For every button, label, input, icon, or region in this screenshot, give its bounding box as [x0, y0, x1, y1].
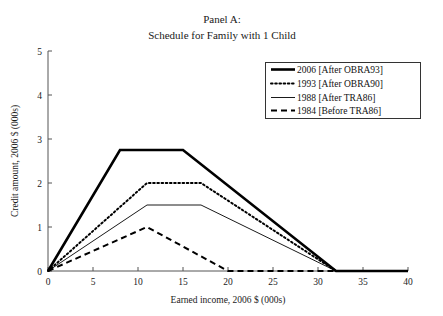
legend-label-4: 1984 [Before TRA86]	[297, 106, 381, 116]
series-line-3	[48, 205, 408, 271]
chart-title: Panel A:	[203, 13, 241, 25]
x-tick-label: 40	[403, 277, 413, 287]
x-tick-label: 0	[46, 277, 51, 287]
y-tick-label: 2	[37, 179, 42, 189]
y-tick-label: 3	[37, 135, 42, 145]
series-group	[48, 150, 408, 271]
y-tick-label: 5	[37, 47, 42, 57]
chart-legend: 2006 [After OBRA93]1993 [After OBRA90]19…	[266, 63, 421, 119]
x-axis-title: Earned income, 2006 $ (000s)	[171, 295, 286, 306]
x-tick-label: 10	[133, 277, 143, 287]
legend-label-3: 1988 [After TRA86]	[297, 93, 375, 103]
y-axis-ticks: 012345	[37, 47, 52, 277]
y-tick-label: 4	[37, 91, 42, 101]
y-axis-title: Credit amount, 2006 $ (000s)	[10, 105, 21, 217]
legend-label-2: 1993 [After OBRA90]	[297, 79, 383, 89]
chart-figure: Panel A: Schedule for Family with 1 Chil…	[0, 0, 443, 316]
series-line-4	[48, 227, 408, 271]
x-tick-label: 15	[178, 277, 188, 287]
x-tick-label: 20	[223, 277, 233, 287]
chart-subtitle: Schedule for Family with 1 Child	[148, 29, 296, 41]
x-tick-label: 35	[358, 277, 368, 287]
legend-label-1: 2006 [After OBRA93]	[297, 65, 383, 75]
series-line-2	[48, 183, 408, 271]
x-tick-label: 25	[268, 277, 278, 287]
y-tick-label: 0	[37, 267, 42, 277]
chart-canvas: Panel A: Schedule for Family with 1 Chil…	[0, 0, 443, 316]
series-line-1	[48, 150, 408, 271]
x-tick-label: 30	[313, 277, 323, 287]
x-tick-label: 5	[91, 277, 96, 287]
y-tick-label: 1	[37, 223, 42, 233]
